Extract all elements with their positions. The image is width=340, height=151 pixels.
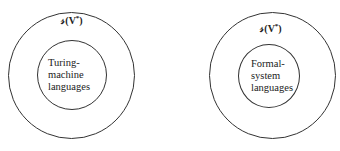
inner-label-right: Formal- system languages: [251, 58, 293, 94]
inner-label-left: Turing- machine languages: [48, 57, 90, 93]
outer-label-left: 𝓈(V*): [42, 14, 102, 27]
outer-label-right: 𝓈(V*): [241, 22, 301, 35]
